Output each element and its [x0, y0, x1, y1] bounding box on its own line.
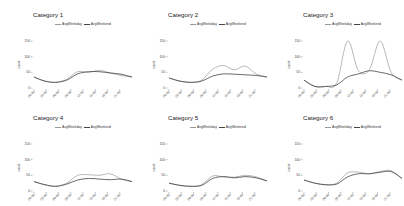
y-axis-label: count: [287, 163, 291, 171]
x-tick-label: 12:00: [211, 90, 220, 99]
x-tick-label: 21:00: [113, 193, 122, 202]
x-tick-label: 12:00: [76, 90, 85, 99]
x-tick-label: 15:00: [88, 90, 97, 99]
x-tick-label: 00:00: [162, 90, 171, 99]
x-tick-label: 21:00: [383, 193, 392, 202]
x-tick-label: 15:00: [223, 90, 232, 99]
line-plot: count05010015000:0003:0006:0009:0012:001…: [0, 103, 135, 206]
panel-category-3: Category 3 AvgWeekday AvgWeekend count05…: [270, 0, 404, 103]
x-tick-label: 03:00: [174, 193, 183, 202]
weekend-line: [304, 171, 402, 185]
y-tick-label: 50: [161, 70, 165, 74]
x-tick-label: 06:00: [187, 90, 196, 99]
panel-category-5: Category 5 AvgWeekday AvgWeekend count05…: [135, 103, 270, 206]
weekend-line: [34, 178, 132, 186]
x-tick-label: 03:00: [309, 90, 318, 99]
x-tick-label: 06:00: [322, 90, 331, 99]
y-tick-label: 0: [28, 86, 30, 90]
x-tick-label: 12:00: [346, 90, 355, 99]
y-tick-label: 150: [24, 39, 30, 43]
y-tick-label: 150: [294, 39, 300, 43]
weekend-line: [169, 74, 267, 83]
x-tick-label: 18:00: [101, 193, 110, 202]
weekday-line: [169, 65, 267, 82]
x-tick-label: 06:00: [322, 193, 331, 202]
y-tick-label: 0: [28, 189, 30, 193]
x-tick-label: 09:00: [199, 90, 208, 99]
y-axis-label: count: [17, 60, 21, 68]
x-tick-label: 00:00: [162, 193, 171, 202]
x-tick-label: 03:00: [39, 193, 48, 202]
x-tick-label: 06:00: [52, 193, 61, 202]
x-tick-label: 00:00: [27, 90, 36, 99]
panel-category-4: Category 4 AvgWeekday AvgWeekend count05…: [0, 103, 135, 206]
y-tick-label: 100: [24, 55, 30, 59]
y-tick-label: 0: [298, 189, 300, 193]
y-axis-label: count: [17, 163, 21, 171]
y-tick-label: 150: [294, 142, 300, 146]
y-tick-label: 100: [159, 55, 165, 59]
y-tick-label: 150: [159, 39, 165, 43]
y-tick-label: 50: [161, 173, 165, 177]
x-tick-label: 21:00: [113, 90, 122, 99]
line-plot: count05010015000:0003:0006:0009:0012:001…: [0, 0, 135, 103]
x-tick-label: 00:00: [297, 90, 306, 99]
x-tick-label: 06:00: [187, 193, 196, 202]
x-tick-label: 06:00: [52, 90, 61, 99]
x-tick-label: 15:00: [358, 193, 367, 202]
line-plot: count05010015000:0003:0006:0009:0012:001…: [270, 103, 404, 206]
y-tick-label: 100: [294, 158, 300, 162]
panel-category-1: Category 1 AvgWeekday AvgWeekend count05…: [0, 0, 135, 103]
x-tick-label: 03:00: [39, 90, 48, 99]
y-tick-label: 50: [26, 70, 30, 74]
chart-grid: Category 1 AvgWeekday AvgWeekend count05…: [0, 0, 404, 206]
x-tick-label: 21:00: [248, 90, 257, 99]
y-tick-label: 50: [296, 70, 300, 74]
x-tick-label: 15:00: [358, 90, 367, 99]
panel-category-2: Category 2 AvgWeekday AvgWeekend count05…: [135, 0, 270, 103]
x-tick-label: 09:00: [199, 193, 208, 202]
weekend-line: [34, 71, 132, 82]
y-axis-label: count: [152, 163, 156, 171]
y-axis-label: count: [152, 60, 156, 68]
x-tick-label: 00:00: [27, 193, 36, 202]
y-tick-label: 150: [159, 142, 165, 146]
y-tick-label: 100: [294, 55, 300, 59]
weekend-line: [169, 177, 267, 187]
line-plot: count05010015000:0003:0006:0009:0012:001…: [270, 0, 404, 103]
x-tick-label: 12:00: [346, 193, 355, 202]
x-tick-label: 09:00: [64, 90, 73, 99]
x-tick-label: 15:00: [88, 193, 97, 202]
weekend-line: [304, 71, 402, 87]
y-tick-label: 0: [163, 86, 165, 90]
y-tick-label: 0: [298, 86, 300, 90]
x-tick-label: 09:00: [64, 193, 73, 202]
x-tick-label: 03:00: [174, 90, 183, 99]
x-tick-label: 18:00: [101, 90, 110, 99]
y-tick-label: 100: [24, 158, 30, 162]
x-tick-label: 12:00: [76, 193, 85, 202]
line-plot: count05010015000:0003:0006:0009:0012:001…: [135, 103, 270, 206]
panel-category-6: Category 6 AvgWeekday AvgWeekend count05…: [270, 103, 404, 206]
y-tick-label: 150: [24, 142, 30, 146]
x-tick-label: 18:00: [236, 90, 245, 99]
weekday-line: [304, 170, 402, 185]
x-tick-label: 18:00: [371, 90, 380, 99]
y-tick-label: 50: [26, 173, 30, 177]
x-tick-label: 03:00: [309, 193, 318, 202]
x-tick-label: 12:00: [211, 193, 220, 202]
y-tick-label: 100: [159, 158, 165, 162]
y-tick-label: 50: [296, 173, 300, 177]
x-tick-label: 15:00: [223, 193, 232, 202]
x-tick-label: 21:00: [248, 193, 257, 202]
weekday-line: [34, 174, 132, 187]
x-tick-label: 18:00: [371, 193, 380, 202]
y-axis-label: count: [287, 60, 291, 68]
y-tick-label: 0: [163, 189, 165, 193]
x-tick-label: 18:00: [236, 193, 245, 202]
x-tick-label: 09:00: [334, 90, 343, 99]
x-tick-label: 21:00: [383, 90, 392, 99]
x-tick-label: 00:00: [297, 193, 306, 202]
line-plot: count05010015000:0003:0006:0009:0012:001…: [135, 0, 270, 103]
weekday-line: [304, 41, 402, 88]
